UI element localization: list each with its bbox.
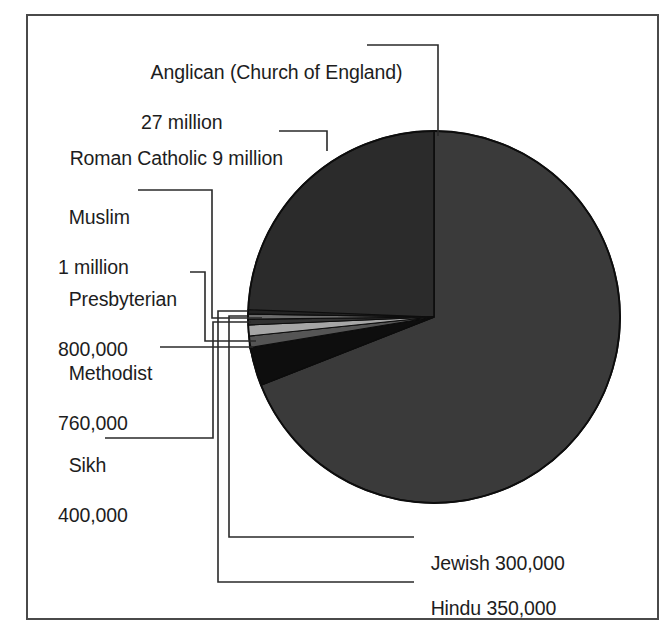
- label-sikh-line2: 400,000: [58, 503, 128, 528]
- label-hindu: Hindu 350,000: [420, 571, 556, 621]
- leader-line-presbyterian: [190, 272, 256, 341]
- label-roman-catholic: Roman Catholic 9 million: [59, 121, 283, 171]
- label-sikh: Sikh 400,000: [58, 428, 128, 553]
- label-jewish: Jewish 300,000: [420, 526, 565, 576]
- label-roman-catholic-line1: Roman Catholic 9 million: [70, 147, 283, 169]
- label-sikh-line1: Sikh: [69, 454, 107, 476]
- label-muslim-line1: Muslim: [69, 206, 130, 228]
- pie-slice-group: [248, 131, 620, 503]
- label-hindu-line1: Hindu 350,000: [431, 597, 557, 619]
- label-anglican-line1: Anglican (Church of England): [151, 61, 403, 83]
- label-presbyterian-line1: Presbyterian: [69, 288, 177, 310]
- label-methodist-line1: Methodist: [69, 362, 153, 384]
